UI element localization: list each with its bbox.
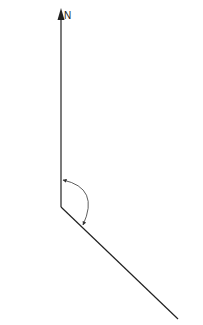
north-label: N xyxy=(64,11,71,21)
bearing-line xyxy=(61,207,178,319)
angle-arc xyxy=(63,180,88,225)
bearing-diagram xyxy=(0,0,203,325)
north-line xyxy=(58,8,65,207)
